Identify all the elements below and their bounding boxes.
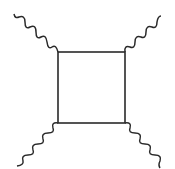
wavy-line-bottom-left [17,123,58,166]
box-loop [58,52,125,123]
wavy-line-top-right [125,16,161,52]
feynman-box-diagram [0,0,175,169]
wavy-line-top-left [14,14,58,52]
wavy-line-bottom-right [125,123,160,168]
